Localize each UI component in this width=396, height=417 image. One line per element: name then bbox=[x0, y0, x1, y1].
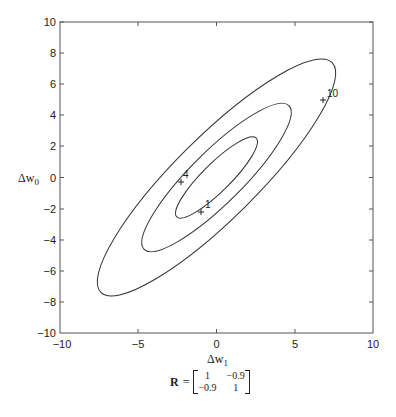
y-tick-label: 2 bbox=[50, 140, 56, 152]
x-tick-label: −10 bbox=[53, 338, 72, 350]
y-tick-label: −4 bbox=[43, 234, 56, 246]
x-tick-label: −5 bbox=[132, 338, 145, 350]
y-tick-label: −8 bbox=[43, 296, 56, 308]
marker-10-icon bbox=[320, 97, 326, 103]
y-tick-label: 8 bbox=[50, 47, 56, 59]
matrix-cell: 1 bbox=[227, 382, 245, 394]
y-axis-ticks bbox=[60, 22, 373, 302]
equals-sign: = bbox=[183, 375, 190, 390]
y-tick-label: −6 bbox=[43, 265, 56, 277]
y-tick-label: 10 bbox=[44, 16, 56, 28]
contours bbox=[72, 34, 361, 322]
plot-frame bbox=[60, 22, 373, 333]
matrix-cell: −0.9 bbox=[227, 370, 245, 382]
contour-level-10 bbox=[72, 34, 361, 322]
y-tick-labels: 10 8 6 4 2 0 −2 −4 −6 −8 −10 bbox=[37, 16, 56, 339]
contour-level-1 bbox=[167, 128, 266, 227]
annotation-10: 10 bbox=[327, 88, 339, 99]
x-tick-label: 0 bbox=[213, 338, 219, 350]
y-axis-label: Δw0 bbox=[18, 171, 39, 187]
annotation-1: 1 bbox=[205, 199, 211, 210]
x-tick-label: 5 bbox=[292, 338, 298, 350]
y-tick-label: 0 bbox=[50, 172, 56, 184]
matrix-symbol: R bbox=[170, 375, 179, 390]
correlation-matrix-equation: R = 1 −0.9 −0.9 1 bbox=[170, 370, 250, 394]
matrix: 1 −0.9 −0.9 1 bbox=[193, 370, 249, 394]
y-tick-label: −2 bbox=[43, 203, 56, 215]
contour-level-4 bbox=[126, 87, 307, 268]
x-tick-labels: −10 −5 0 5 10 bbox=[53, 338, 379, 350]
x-axis-ticks bbox=[138, 22, 295, 333]
annotation-4: 4 bbox=[183, 169, 189, 180]
x-tick-label: 10 bbox=[367, 338, 379, 350]
y-tick-label: 6 bbox=[50, 78, 56, 90]
contour-plot: 10 8 6 4 2 0 −2 −4 −6 −8 −10 −10 −5 0 5 … bbox=[0, 0, 396, 417]
x-axis-label: Δw1 bbox=[207, 352, 228, 368]
y-tick-label: 4 bbox=[50, 109, 56, 121]
matrix-cell: −0.9 bbox=[198, 382, 216, 394]
matrix-cell: 1 bbox=[198, 370, 216, 382]
